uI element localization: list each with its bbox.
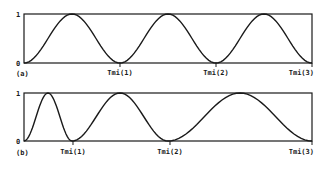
panel-b-label: (b) <box>16 149 29 157</box>
xtick-label: Tmi(2) <box>157 148 182 156</box>
panel-a-label: (a) <box>16 70 29 78</box>
xtick-label: Tmi(3) <box>289 69 314 77</box>
panel-a-ytick-0: 0 <box>16 60 20 68</box>
panel-a-curve <box>24 14 312 63</box>
panel-b: 1 0 (b) Tmi(1)Tmi(2)Tmi(3) <box>16 90 314 157</box>
xtick-label: Tmi(3) <box>289 148 314 156</box>
xtick-label: Tmi(2) <box>203 69 228 77</box>
panel-a-ytick-1: 1 <box>16 11 20 19</box>
panel-a: 1 0 (a) Tmi(1)Tmi(2)Tmi(3) <box>16 11 314 78</box>
panel-b-xticks: Tmi(1)Tmi(2)Tmi(3) <box>60 141 314 156</box>
panel-a-frame <box>24 14 312 63</box>
panel-a-xticks: Tmi(1)Tmi(2)Tmi(3) <box>107 63 314 77</box>
panel-b-ytick-0: 0 <box>16 138 20 146</box>
panel-b-frame <box>24 93 312 141</box>
xtick-label: Tmi(1) <box>107 69 132 77</box>
figure: 1 0 (a) Tmi(1)Tmi(2)Tmi(3) 1 0 (b) Tmi(1… <box>0 0 323 171</box>
panel-b-curve <box>24 93 312 141</box>
panel-b-ytick-1: 1 <box>16 90 20 98</box>
xtick-label: Tmi(1) <box>60 148 85 156</box>
